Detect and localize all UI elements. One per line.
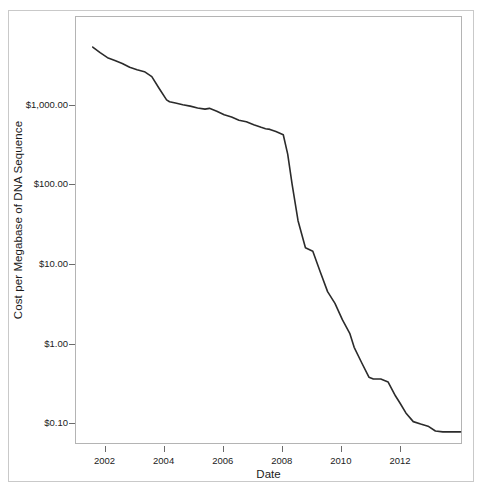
- x-tick-mark: [341, 446, 342, 452]
- figure-root: Cost per Megabase of DNA Sequence $1,000…: [0, 0, 484, 492]
- x-axis-title: Date: [75, 468, 462, 480]
- x-axis-ticks: 200220042006200820102012: [0, 0, 484, 492]
- x-tick-mark: [400, 446, 401, 452]
- x-tick-mark: [105, 446, 106, 452]
- x-tick-mark: [223, 446, 224, 452]
- x-tick-label: 2012: [370, 455, 430, 466]
- x-tick-mark: [164, 446, 165, 452]
- x-tick-mark: [282, 446, 283, 452]
- x-tick-label: 2008: [252, 455, 312, 466]
- x-tick-label: 2010: [311, 455, 371, 466]
- x-tick-label: 2006: [193, 455, 253, 466]
- x-tick-label: 2004: [134, 455, 194, 466]
- x-tick-label: 2002: [75, 455, 135, 466]
